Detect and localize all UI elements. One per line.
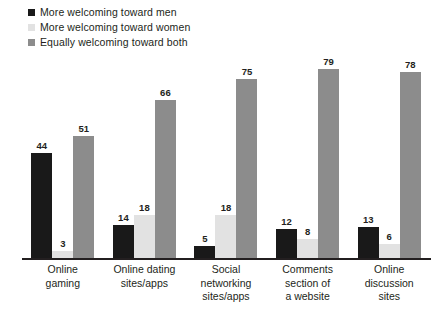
category-label-line: section of [267, 277, 349, 291]
legend-item-label: Equally welcoming toward both [40, 36, 188, 49]
bar-value-label: 3 [60, 238, 65, 249]
category-label-line: networking [185, 277, 267, 291]
category-label-line: Comments [267, 263, 349, 277]
bar-column[interactable]: 12 [276, 55, 297, 258]
bar[interactable] [297, 239, 318, 258]
bar[interactable] [276, 229, 297, 258]
category-label-line: sites/apps [104, 277, 186, 291]
bar[interactable] [318, 69, 339, 258]
bar-column[interactable]: 6 [379, 55, 400, 258]
x-axis-baseline [22, 258, 431, 260]
square-swatch [28, 24, 35, 31]
bar[interactable] [73, 136, 94, 258]
bar[interactable] [358, 227, 379, 258]
grouped-bar-chart: More welcoming toward menMore welcoming … [0, 0, 442, 310]
square-swatch [28, 39, 35, 46]
category-label-line: Online [22, 263, 104, 277]
legend-item[interactable]: More welcoming toward men [28, 5, 328, 19]
bar-column[interactable]: 5 [194, 55, 215, 258]
bar-column[interactable]: 79 [318, 55, 339, 258]
square-swatch [28, 9, 35, 16]
bar-value-label: 18 [221, 202, 232, 213]
bar-column[interactable]: 3 [52, 55, 73, 258]
category-label-line: gaming [22, 277, 104, 291]
bar[interactable] [379, 244, 400, 258]
bar-column[interactable]: 13 [358, 55, 379, 258]
category-label: Online datingsites/apps [104, 263, 186, 290]
bar-value-label: 14 [118, 212, 129, 223]
bar-value-label: 13 [363, 214, 374, 225]
category-label-line: a website [267, 290, 349, 304]
bar-value-label: 51 [79, 123, 90, 134]
bar-group: 51875 [185, 55, 267, 258]
bar-column[interactable]: 44 [31, 55, 52, 258]
bar[interactable] [215, 215, 236, 258]
bar[interactable] [236, 79, 257, 258]
bar-value-label: 75 [242, 66, 253, 77]
plot-area: 44351141866518751287913678 [22, 55, 430, 258]
bar[interactable] [400, 72, 421, 258]
category-label: Commentssection ofa website [267, 263, 349, 304]
legend-item[interactable]: More welcoming toward women [28, 20, 328, 34]
bar-value-label: 5 [202, 233, 207, 244]
bar[interactable] [194, 246, 215, 258]
bar-value-label: 66 [160, 87, 171, 98]
bar-column[interactable]: 66 [155, 55, 176, 258]
bar-value-label: 6 [387, 231, 392, 242]
bar[interactable] [113, 225, 134, 258]
legend-item[interactable]: Equally welcoming toward both [28, 35, 328, 49]
category-label-line: sites/apps [185, 290, 267, 304]
category-label-line: discussion [348, 277, 430, 291]
x-axis-category-labels: OnlinegamingOnline datingsites/appsSocia… [22, 263, 431, 309]
category-label: Socialnetworkingsites/apps [185, 263, 267, 304]
chart-legend: More welcoming toward menMore welcoming … [28, 5, 328, 50]
bar-value-label: 8 [305, 226, 310, 237]
bar-value-label: 12 [281, 216, 292, 227]
bar-group: 141866 [104, 55, 186, 258]
legend-item-label: More welcoming toward women [40, 21, 190, 34]
category-label-line: sites [348, 290, 430, 304]
bar-column[interactable]: 8 [297, 55, 318, 258]
bar-column[interactable]: 14 [113, 55, 134, 258]
category-label: Onlinegaming [22, 263, 104, 290]
bar-value-label: 18 [139, 202, 150, 213]
bar[interactable] [134, 215, 155, 258]
bar-column[interactable]: 75 [236, 55, 257, 258]
category-label-line: Online dating [104, 263, 186, 277]
bar-group: 44351 [22, 55, 104, 258]
category-label-line: Social [185, 263, 267, 277]
bar-column[interactable]: 18 [215, 55, 236, 258]
bar-value-label: 79 [323, 56, 334, 67]
bar[interactable] [31, 153, 52, 258]
bar-column[interactable]: 51 [73, 55, 94, 258]
bar[interactable] [155, 100, 176, 258]
bar[interactable] [52, 251, 73, 258]
category-label: Onlinediscussionsites [348, 263, 430, 304]
bar-group: 13678 [348, 55, 430, 258]
bar-column[interactable]: 18 [134, 55, 155, 258]
bar-value-label: 44 [37, 140, 48, 151]
bar-value-label: 78 [405, 59, 416, 70]
legend-item-label: More welcoming toward men [40, 6, 177, 19]
bar-column[interactable]: 78 [400, 55, 421, 258]
category-label-line: Online [348, 263, 430, 277]
bar-group: 12879 [267, 55, 349, 258]
